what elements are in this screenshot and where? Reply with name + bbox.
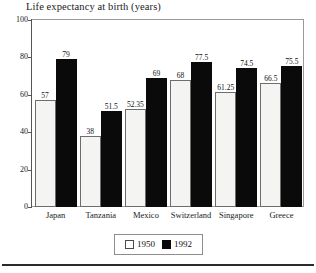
bar-series-container: 57793851.552.35696877.561.2574.566.575.5 (32, 20, 303, 207)
bar-value-label: 69 (153, 70, 161, 78)
black-square-icon (162, 240, 171, 249)
bar-value-label: 51.5 (105, 103, 118, 111)
y-tick-label: 20 (0, 166, 28, 174)
x-tick-label-greece: Greece (252, 210, 310, 221)
y-tick-label: 40 (0, 128, 28, 136)
bar-singapore-1992: 74.5 (236, 68, 257, 207)
bar-value-label: 66.5 (264, 75, 277, 83)
bar-value-label: 77.5 (195, 54, 208, 62)
page-title: Life expectancy at birth (years) (26, 1, 161, 12)
x-axis-labels: JapanTanzaniaMexicoSwitzerlandSingaporeG… (32, 210, 304, 224)
bar-mexico-1992: 69 (146, 78, 167, 207)
bar-greece-1950: 66.5 (260, 83, 281, 207)
bar-group: 52.3569 (125, 20, 167, 207)
bar-switzerland-1992: 77.5 (191, 62, 212, 207)
chart-legend: 1950 1992 (114, 234, 203, 255)
bar-tanzania-1992: 51.5 (101, 111, 122, 207)
bar-group: 5779 (35, 20, 77, 207)
bar-singapore-1950: 61.25 (215, 92, 236, 207)
bar-greece-1992: 75.5 (281, 66, 302, 207)
bar-value-label: 75.5 (285, 58, 298, 66)
y-tick-mark (28, 207, 32, 208)
bar-japan-1992: 79 (56, 59, 77, 207)
bar-switzerland-1950: 68 (170, 80, 191, 207)
bar-japan-1950: 57 (35, 100, 56, 207)
white-square-icon (125, 240, 134, 249)
y-tick-label: 60 (0, 91, 28, 99)
legend-item-1950: 1950 (125, 240, 155, 249)
bar-value-label: 38 (87, 128, 95, 136)
chart-figure: Life expectancy at birth (years) 0204060… (0, 0, 316, 273)
bar-tanzania-1950: 38 (80, 136, 101, 207)
bar-mexico-1950: 52.35 (125, 109, 146, 207)
bar-value-label: 61.25 (217, 84, 234, 92)
bar-group: 61.2574.5 (215, 20, 257, 207)
bar-value-label: 57 (41, 92, 49, 100)
footer-divider (2, 264, 314, 266)
bar-group: 3851.5 (80, 20, 122, 207)
legend-label: 1992 (174, 240, 192, 249)
y-tick-label: 80 (0, 53, 28, 61)
y-tick-label: 100 (0, 16, 28, 24)
bar-value-label: 52.35 (127, 101, 144, 109)
bar-group: 66.575.5 (260, 20, 302, 207)
bar-value-label: 79 (62, 51, 70, 59)
legend-item-1992: 1992 (162, 240, 192, 249)
bar-group: 6877.5 (170, 20, 212, 207)
bar-value-label: 74.5 (240, 60, 253, 68)
bar-value-label: 68 (177, 72, 185, 80)
legend-label: 1950 (137, 240, 155, 249)
y-tick-label: 0 (0, 203, 28, 211)
